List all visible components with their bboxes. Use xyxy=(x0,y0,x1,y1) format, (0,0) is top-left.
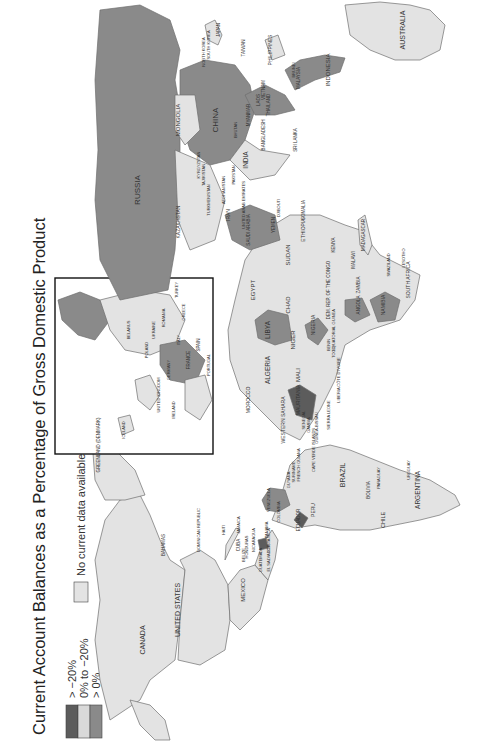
country-label: NIGER xyxy=(290,330,296,350)
country-label: CAPE VERDE ISLANDS xyxy=(311,428,316,472)
country-label: PERU xyxy=(310,503,316,517)
country-label: LIBERIA xyxy=(336,387,341,403)
country-label: GREENLAND (DENMARK) xyxy=(96,417,101,472)
country-label: SIERRA LEONE xyxy=(326,400,331,430)
country-label: NICARAGUA xyxy=(251,528,256,552)
legend-label-deficit-over-20: > −20% xyxy=(66,660,78,698)
country-label: EQUATORIAL GUINEA xyxy=(331,309,336,351)
country-label: VIETNAM xyxy=(261,80,266,100)
country-label: KAZAKHSTAN xyxy=(175,205,181,238)
country-label: MALI xyxy=(295,368,301,382)
country-label: HONDURAS xyxy=(244,535,249,558)
country-label: FRENCH GUIANA xyxy=(296,448,301,481)
country-label: BAHAMAS xyxy=(161,534,166,556)
country-label: CHILE xyxy=(380,512,386,529)
country-label: ARGENTINA xyxy=(414,470,421,509)
country-label: CHINA xyxy=(211,107,220,133)
country-label: UNITED STATES xyxy=(174,583,181,638)
country-label: URUGUAY xyxy=(406,460,411,480)
country-label: BANGLADESH xyxy=(261,120,266,151)
country-label: GREECE xyxy=(181,303,186,320)
legend-swatch-deficit-over-20 xyxy=(66,705,78,738)
country-label: BELARUS xyxy=(126,320,131,339)
country-label: TAIWAN xyxy=(241,40,246,57)
country-label: UNITED ARAB EMIRATES xyxy=(241,181,246,229)
country-label: INDIA xyxy=(242,151,249,169)
country-label: DJIBOUTI xyxy=(276,199,281,217)
country-label: SUDAN xyxy=(285,244,291,265)
country-label: VENEZUELA xyxy=(266,488,271,512)
country-label: AUSTRALIA xyxy=(399,10,406,49)
country-label: NIGERIA xyxy=(310,314,316,335)
country-label: BRAZIL xyxy=(339,463,346,488)
country-label: WESTERN SAHARA xyxy=(280,396,286,444)
country-label: LIBYA xyxy=(264,320,271,339)
country-label: INDONESIA xyxy=(325,53,331,86)
country-label: RUSSIA xyxy=(133,174,142,204)
country-label: SOMALIA xyxy=(301,200,306,220)
country-label: BHUTAN xyxy=(233,122,238,138)
country-label: ANGOLA xyxy=(356,296,361,315)
country-label: EGYPT xyxy=(250,279,256,300)
country-label: SAUDI ARABIA xyxy=(246,214,251,245)
country-label: CHAD xyxy=(285,296,291,314)
country-label: MEXICO xyxy=(240,578,246,602)
country-label: HAITI xyxy=(221,525,226,535)
country-label: JAPAN xyxy=(216,23,221,37)
country-label: KENYA xyxy=(331,238,336,253)
country-label: MADAGASCAR xyxy=(361,218,366,251)
country-label: ZAMBIA xyxy=(356,277,361,294)
country-label: PORTUGAL xyxy=(206,353,211,376)
map-title: Current Account Balances as a Percentage… xyxy=(30,217,48,735)
country-label: GERMANY xyxy=(166,360,171,381)
country-label: YEMEN xyxy=(271,217,276,233)
country-label: SWAZILAND xyxy=(386,253,391,276)
country-label: COLOMBIA xyxy=(276,501,281,522)
country-label: SOUTH KOREA xyxy=(206,30,211,59)
country-label: THAILAND xyxy=(266,93,271,116)
country-label: JAMAICA xyxy=(236,516,241,534)
country-label: IRELAND xyxy=(171,401,176,418)
russia-shape xyxy=(95,5,180,300)
country-label: SPAIN xyxy=(196,338,201,351)
country-label: LAOS xyxy=(256,94,261,106)
country-label: AFGHANISTAN xyxy=(221,176,226,204)
country-label: ROMANIA xyxy=(161,308,166,327)
country-label: ALGERIA xyxy=(264,355,271,384)
country-label: FRANCE xyxy=(186,351,191,370)
country-label: UKRAINE xyxy=(151,321,156,339)
country-label: ICELAND xyxy=(121,421,126,438)
country-label: MONGOLIA xyxy=(175,104,181,136)
country-label: PAKISTAN xyxy=(231,165,236,184)
country-label: TURKMENISTAN xyxy=(206,184,211,215)
country-label: ITALY xyxy=(176,334,181,345)
country-label: PHILIPPINES xyxy=(267,34,273,66)
country-label: MYANMAR xyxy=(246,103,251,126)
country-label: ECUADOR xyxy=(296,508,301,531)
country-label: CÔTE D'IVOIRE xyxy=(336,357,341,387)
legend-label-no-data: No current data available xyxy=(75,454,87,576)
country-label: MALAWI xyxy=(351,251,356,269)
country-label: BRUNEI xyxy=(291,62,296,77)
country-label: MOROCCO xyxy=(245,387,251,414)
country-label: PANAMA xyxy=(264,521,269,538)
country-label: TAJIKISTAN xyxy=(201,164,206,186)
legend-label-deficit-0-to-20: 0% to −20% xyxy=(78,638,90,698)
country-label: UNITED KINGDOM xyxy=(156,377,161,412)
legend-swatch-surplus xyxy=(90,705,102,738)
country-label: CANADA xyxy=(139,625,146,655)
country-label: BOLIVIA xyxy=(366,481,371,499)
map-figure: Current Account Balances as a Percentage… xyxy=(0,0,477,749)
country-label: POLAND xyxy=(144,342,149,359)
country-label: LESOTHO xyxy=(401,248,406,267)
country-label: SRI LANKA xyxy=(293,128,298,152)
country-label: IRAN xyxy=(225,209,231,221)
country-label: ETHIOPIA xyxy=(300,218,306,242)
country-label: PARAGUAY xyxy=(376,467,381,489)
country-label: TURKEY xyxy=(174,282,179,299)
country-label: NAMIBIA xyxy=(380,294,386,315)
country-label: MALAYSIA xyxy=(296,67,301,89)
legend-swatch-deficit-0-to-20 xyxy=(78,705,90,738)
legend-swatch-no-data xyxy=(74,582,88,602)
country-label: DOMINICAN REPUBLIC xyxy=(196,508,201,552)
